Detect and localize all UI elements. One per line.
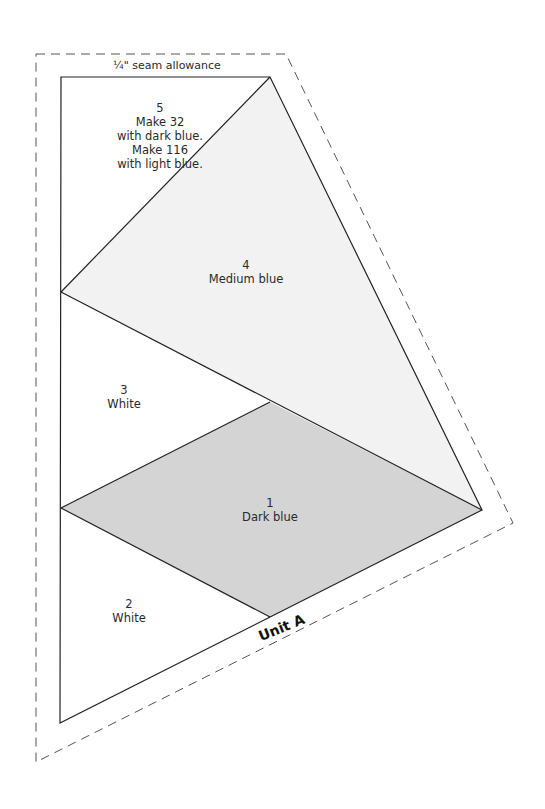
piece-number: 4 (209, 258, 284, 272)
piece-number: 3 (107, 383, 140, 397)
instruction-line: with dark blue. (117, 129, 203, 143)
unit-a-foundation-pattern (0, 0, 545, 809)
piece-4-label: 4 Medium blue (209, 258, 284, 286)
instruction-line: Make 116 (117, 143, 203, 157)
piece-2-label: 2 White (112, 597, 145, 625)
piece-number: 2 (112, 597, 145, 611)
fabric-name: Dark blue (242, 510, 298, 524)
piece-1-label: 1 Dark blue (242, 496, 298, 524)
fabric-name: White (112, 611, 145, 625)
instruction-line: Make 32 (117, 115, 203, 129)
piece-5-label: 5 Make 32 with dark blue. Make 116 with … (117, 101, 203, 171)
fabric-name: White (107, 397, 140, 411)
seam-allowance-label: ¼" seam allowance (113, 59, 221, 72)
instruction-line: with light blue. (117, 157, 203, 171)
piece-number: 1 (242, 496, 298, 510)
piece-3-label: 3 White (107, 383, 140, 411)
piece-number: 5 (117, 101, 203, 115)
fabric-name: Medium blue (209, 272, 284, 286)
